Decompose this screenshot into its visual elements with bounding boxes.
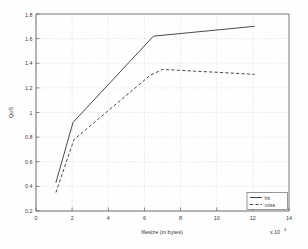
x-axis-multiplier-exponent: 4 <box>284 228 286 232</box>
xtick-label-6: 6 <box>143 215 146 221</box>
ytick-label-0-8: 0.8 <box>25 134 33 140</box>
ytick-label-0-6: 0.6 <box>25 159 33 165</box>
ytick-label-1-0: 1 <box>30 110 33 116</box>
ytick-label-1-2: 1.2 <box>25 85 33 91</box>
xtick-label-2: 2 <box>71 215 74 221</box>
xtick-label-8: 8 <box>179 215 182 221</box>
legend-label-miss: miss <box>265 202 276 208</box>
xtick-label-10: 10 <box>214 215 220 221</box>
ytick-label-1-4: 1.4 <box>25 60 33 66</box>
xtick-label-4: 4 <box>107 215 110 221</box>
xtick-label-14: 14 <box>286 215 292 221</box>
x-axis-multiplier-base: x 10 <box>270 229 280 235</box>
chart-figure: 0 2 4 6 8 10 12 14 0.2 0.4 0.6 0.8 1 1.2… <box>0 0 308 249</box>
ytick-label-0-2: 0.2 <box>25 208 33 214</box>
x-axis-title: filesize (in bytes) <box>141 229 183 235</box>
legend-label-hit: hit <box>265 195 271 201</box>
qos-vs-filesize-line-chart: 0 2 4 6 8 10 12 14 0.2 0.4 0.6 0.8 1 1.2… <box>0 0 308 249</box>
xtick-label-0: 0 <box>35 215 38 221</box>
chart-legend: hit miss <box>247 193 288 210</box>
ytick-label-1-6: 1.6 <box>25 36 33 42</box>
ytick-label-1-8: 1.8 <box>25 12 33 18</box>
xtick-label-12: 12 <box>250 215 256 221</box>
y-axis-title: QoS <box>8 107 14 118</box>
figure-background <box>0 0 308 249</box>
ytick-label-0-4: 0.4 <box>25 183 33 189</box>
